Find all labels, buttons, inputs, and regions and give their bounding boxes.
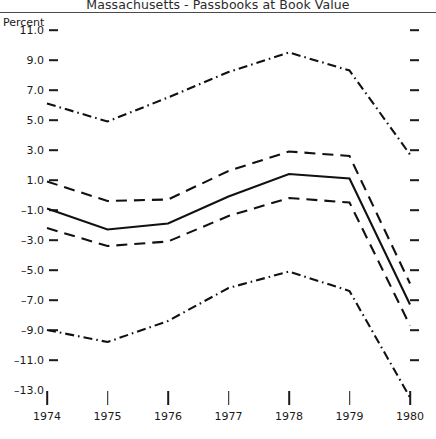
series-group bbox=[47, 53, 410, 398]
series-line-center-solid bbox=[47, 174, 410, 305]
series-line-lower-dashed bbox=[47, 198, 410, 326]
plot-area bbox=[0, 0, 436, 439]
series-line-upper-dashed bbox=[47, 152, 410, 284]
chart-container: Massachusetts - Passbooks at Book Value … bbox=[0, 0, 436, 439]
series-line-upper-dashdot bbox=[47, 53, 410, 155]
series-line-lower-dashdot bbox=[47, 272, 410, 398]
